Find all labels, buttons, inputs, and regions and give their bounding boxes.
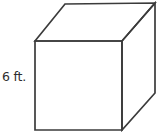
- edge-length-label: 6 ft.: [2, 67, 34, 87]
- cube-front-face: [35, 41, 122, 130]
- cube-figure: 6 ft.: [0, 0, 165, 139]
